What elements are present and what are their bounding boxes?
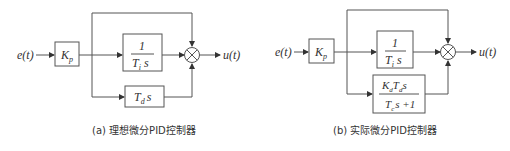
diagram-a-labels: e(t) Kp 1 Ti s Tds u(t) (17, 39, 240, 106)
derivative-denominator-b: Tcs +1 (385, 98, 415, 113)
derivative-label-a: Tds (134, 90, 152, 106)
gain-label-a: Kp (60, 48, 73, 64)
derivative-numerator-b: KdTds (381, 79, 407, 94)
output-label-a: u(t) (223, 48, 240, 62)
integral-denominator-b: Ti s (385, 53, 402, 69)
integral-denominator-a: Ti s (132, 56, 149, 72)
input-label-a: e(t) (17, 48, 34, 62)
input-label-b: e(t) (275, 45, 292, 59)
caption-b: (b) 实际微分PID控制器 (333, 122, 437, 137)
integral-numerator-a: 1 (139, 39, 145, 53)
gain-label-b: Kp (314, 45, 327, 61)
output-label-b: u(t) (479, 45, 496, 59)
integral-numerator-b: 1 (392, 36, 398, 50)
caption-a: (a) 理想微分PID控制器 (92, 122, 196, 137)
